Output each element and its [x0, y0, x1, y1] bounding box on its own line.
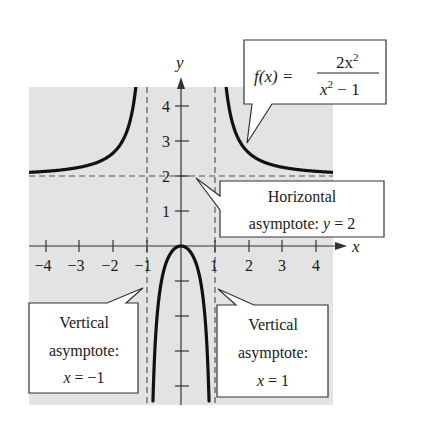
x-tick-label: −4	[34, 257, 51, 274]
y-axis-label: y	[174, 53, 184, 72]
x-tick-label: 1	[210, 257, 218, 274]
vertical-left-var: x	[62, 369, 70, 386]
x-tick-label: 3	[278, 257, 286, 274]
svg-text:x = −1: x = −1	[62, 369, 104, 386]
denominator-rest: − 1	[333, 80, 360, 99]
numerator-exponent: 2	[353, 51, 359, 63]
x-tick-label: −1	[134, 257, 151, 274]
vertical-asymptote-right-callout: Vertical asymptote: x = 1	[217, 289, 328, 397]
x-tick-label: −3	[67, 257, 84, 274]
y-tick-label: 2	[162, 168, 170, 185]
y-tick-label: 3	[162, 133, 170, 150]
horizontal-callout-prefix: asymptote:	[249, 215, 323, 233]
vertical-right-var: x	[256, 372, 264, 389]
rational-function-graph: 4 3 2 1 −4 −3 −2 −1 1 2 3 4 x y f(x) = 2…	[0, 0, 421, 427]
y-axis-arrow-icon	[177, 77, 185, 89]
function-name: f(x) =	[254, 67, 293, 86]
svg-text:x = 1: x = 1	[256, 372, 289, 389]
svg-text:f(x) =: f(x) =	[254, 67, 293, 86]
x-tick-label: 4	[312, 257, 320, 274]
x-tick-label: 2	[245, 257, 253, 274]
vertical-asymptote-left-callout: Vertical asymptote: x = −1	[29, 288, 143, 393]
vertical-right-suffix: = 1	[264, 372, 289, 389]
y-tick-label: 4	[162, 98, 170, 115]
x-axis-label: x	[351, 237, 360, 256]
svg-text:asymptote: y = 2: asymptote: y = 2	[249, 215, 355, 233]
horizontal-callout-line1: Horizontal	[268, 188, 337, 205]
numerator: 2x	[336, 53, 354, 72]
x-tick-label: −2	[101, 257, 118, 274]
vertical-left-line2: asymptote:	[49, 342, 119, 360]
vertical-left-suffix: = −1	[71, 369, 105, 386]
horizontal-asymptote-callout: Horizontal asymptote: y = 2	[196, 178, 384, 237]
vertical-right-line2: asymptote:	[238, 344, 308, 362]
vertical-left-line1: Vertical	[59, 314, 109, 331]
vertical-right-line1: Vertical	[248, 316, 298, 333]
y-tick-label: 1	[162, 203, 170, 220]
svg-text:x2 − 1: x2 − 1	[319, 78, 360, 99]
x-axis-arrow-icon	[335, 242, 347, 250]
horizontal-callout-suffix: = 2	[330, 215, 355, 232]
